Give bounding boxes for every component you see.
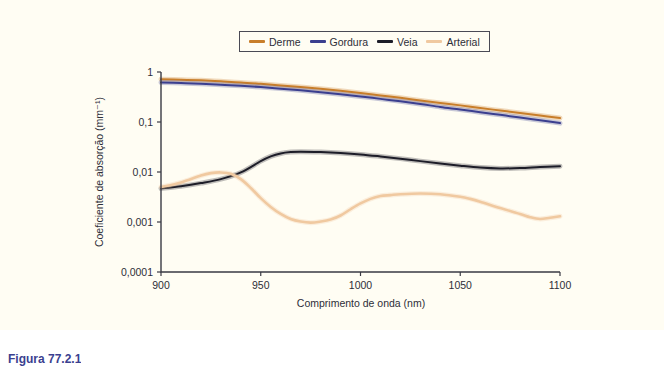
x-tick-label: 950: [252, 279, 270, 291]
y-tick-label: 0,0001: [121, 266, 153, 278]
figure-panel: 10,10,010,0010,0001900950100010501100 Co…: [0, 0, 664, 330]
x-tick-label: 1000: [349, 279, 373, 291]
legend-item-derme: Derme: [249, 36, 301, 48]
legend-item-arterial: Arterial: [426, 36, 479, 48]
legend-label-arterial: Arterial: [446, 36, 479, 48]
legend-swatch-derme: [249, 40, 265, 42]
legend-label-derme: Derme: [269, 36, 301, 48]
x-tick-label: 1050: [449, 279, 473, 291]
legend-label-gordura: Gordura: [330, 36, 369, 48]
series-layer: [161, 79, 560, 223]
x-tick-label: 1100: [549, 279, 572, 291]
x-tick-label: 900: [152, 279, 170, 291]
series-halo-gordura: [161, 82, 560, 123]
legend-swatch-gordura: [310, 40, 326, 42]
legend-label-veia: Veia: [397, 36, 417, 48]
x-axis-title: Comprimento de onda (nm): [297, 297, 425, 309]
y-tick-label: 0,01: [133, 166, 154, 178]
y-axis-title: Coeficiente de absorção (mm⁻¹): [93, 97, 105, 247]
figure-root: 10,10,010,0010,0001900950100010501100 Co…: [0, 0, 664, 367]
legend-swatch-arterial: [426, 40, 442, 42]
chart-legend: DermeGorduraVeiaArterial: [239, 31, 490, 52]
legend-swatch-veia: [377, 40, 393, 42]
y-tick-label: 1: [147, 66, 153, 78]
legend-item-gordura: Gordura: [310, 36, 369, 48]
y-tick-label: 0,001: [127, 216, 153, 228]
legend-item-veia: Veia: [377, 36, 417, 48]
figure-caption: Figura 77.2.1: [8, 352, 81, 367]
y-tick-label: 0,1: [138, 116, 153, 128]
